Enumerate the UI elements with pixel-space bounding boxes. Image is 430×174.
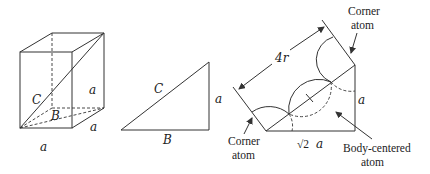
body-centered-label-1: Body-centered: [343, 142, 411, 155]
cube-label-c: C: [32, 93, 41, 107]
cube-label-b: B: [50, 109, 60, 123]
corner-atom-top-label-1: Corner: [348, 5, 380, 17]
cube-label-a-depth: a: [90, 120, 97, 134]
cube-diagram: a C B a a: [20, 33, 104, 154]
corner-atom-top-pointer: [351, 33, 357, 53]
cube-label-a-vertical: a: [89, 83, 96, 97]
cube-edge-tr: [72, 33, 104, 52]
triangle-label-c: C: [154, 82, 163, 96]
cube-edge-tl: [20, 33, 52, 52]
body-centered-pointer: [336, 112, 372, 139]
dim-4r-label: 4r: [274, 51, 290, 65]
corner-atom-bottom-label-1: Corner: [228, 135, 260, 147]
right-triangle-diagram: C a B: [121, 62, 222, 147]
bcc-section-diagram: 4r a √2 a Corner atom Corner atom Body-c…: [228, 5, 411, 168]
cube-label-a-front: a: [40, 140, 47, 154]
corner-atom-bottom-pointer: [244, 118, 252, 134]
body-centered-atom-solid: [289, 79, 331, 114]
cube-edge-br: [72, 108, 104, 128]
cube-body-diagonal-c: [20, 33, 104, 128]
bcc-label-a: a: [358, 93, 365, 107]
triangle-label-b: B: [162, 133, 172, 147]
figure: a C B a a C a B 4r a: [0, 0, 430, 174]
bcc-label-sqrt: √2: [297, 138, 309, 150]
corner-atom-top-hidden: [331, 82, 355, 91]
corner-atom-bottom-hidden: [289, 114, 293, 131]
cube-hidden-depth: [20, 108, 52, 128]
corner-atom-top-label-2: atom: [351, 19, 374, 31]
bcc-label-base-a: a: [316, 137, 323, 151]
bcc-diagonal-line: [266, 65, 355, 131]
bcc-left-cap: [233, 87, 266, 131]
corner-atom-bottom-label-2: atom: [232, 149, 255, 161]
corner-atom-bottom-arc: [252, 107, 289, 114]
body-centered-label-2: atom: [361, 156, 384, 168]
dim-4r-arrow-right: [290, 27, 324, 50]
cube-front-face: [20, 52, 72, 128]
dim-4r-arrow-left: [239, 64, 272, 89]
right-triangle: [121, 62, 209, 130]
triangle-label-a: a: [215, 92, 222, 106]
corner-atom-top-arc: [316, 37, 333, 82]
